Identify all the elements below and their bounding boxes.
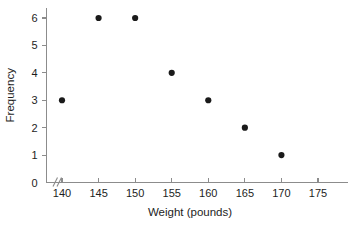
x-tick-label: 165 [236,187,254,199]
data-point [205,97,211,103]
y-tick-label: 6 [31,12,37,24]
y-tick-label: 3 [31,94,37,106]
x-tick-label: 145 [89,187,107,199]
y-tick-label: 2 [31,122,37,134]
x-tick-label: 150 [126,187,144,199]
data-point [278,152,284,158]
data-point [95,15,101,21]
x-axis-title: Weight (pounds) [148,206,232,218]
y-tick-label: 4 [31,67,37,79]
y-axis-title: Frequency [4,68,16,123]
data-point [132,15,138,21]
y-tick-label: 5 [31,39,37,51]
y-tick-label: 0 [31,177,37,189]
data-point [242,125,248,131]
x-tick-label: 155 [163,187,181,199]
x-tick-label: 170 [272,187,290,199]
scatter-chart: 0123456140145150155160165170175Weight (p… [0,0,355,232]
x-tick-label: 175 [309,187,327,199]
y-tick-label: 1 [31,149,37,161]
data-point [169,70,175,76]
data-point [59,97,65,103]
x-tick-label: 140 [53,187,71,199]
x-tick-label: 160 [199,187,217,199]
chart-canvas: 0123456140145150155160165170175Weight (p… [0,0,355,232]
